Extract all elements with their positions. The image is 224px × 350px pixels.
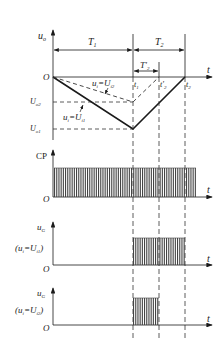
T1-label: T1 <box>88 36 97 48</box>
t2-label: t2 <box>186 80 191 90</box>
ug2-label: uG <box>37 288 46 299</box>
origin-label-2: O <box>43 194 50 204</box>
t-label-2: t <box>207 184 210 195</box>
cp-label: CP <box>36 151 47 161</box>
uo1-label: Uo1 <box>30 124 41 134</box>
clock-panel: CP O t <box>36 150 212 204</box>
solid-curve-pointer <box>80 105 83 112</box>
cp-pulse-train <box>54 168 196 197</box>
counter-gate-ui2-panel: uG (ui=Ui2) O t <box>15 288 212 333</box>
ug1-condition: (ui=Ui1) <box>15 243 43 254</box>
t2p-label: t'2 <box>160 80 167 90</box>
origin-label-4: O <box>43 323 50 333</box>
T2p-label: T'2 <box>140 60 150 71</box>
dashed-curve-label: ui=Ui2 <box>92 78 115 89</box>
ug2-condition: (ui=Ui2) <box>15 305 43 316</box>
t-label-1: t <box>207 64 210 75</box>
t-label-4: t <box>207 313 210 324</box>
counter-gate-ui1-panel: uG (ui=Ui1) O t <box>15 222 212 274</box>
ug2-pulse-train <box>133 298 159 325</box>
origin-label-3: O <box>43 264 50 274</box>
solid-curve-label: ui=Ui1 <box>63 112 85 123</box>
origin-label-1: O <box>43 72 50 82</box>
T2-label: T2 <box>155 36 164 48</box>
ug1-label: uG <box>37 222 46 233</box>
time-guides <box>133 77 185 340</box>
t-label-3: t <box>207 253 210 264</box>
ug1-pulse-train <box>133 238 185 265</box>
dual-slope-adc-timing-diagram: uo O t T1 T2 T'2 t1 t'2 t2 Uo2 Uo1 ui=Ui… <box>0 0 224 350</box>
uo-label: uo <box>38 30 46 42</box>
dashed-curve-pointer <box>105 88 108 94</box>
t1-label: t1 <box>134 80 139 90</box>
uo2-label: Uo2 <box>30 97 41 107</box>
